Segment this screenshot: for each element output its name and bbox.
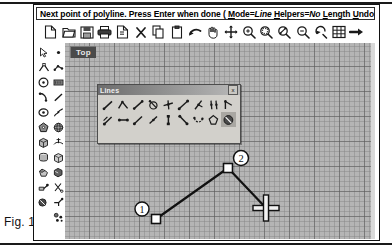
viewport-right-edge bbox=[371, 43, 375, 239]
trim-tool[interactable] bbox=[52, 180, 66, 194]
circle-tool[interactable] bbox=[37, 75, 51, 89]
save-disk-icon[interactable] bbox=[78, 24, 95, 41]
revolve-tool[interactable] bbox=[37, 195, 51, 209]
box-solid-tool[interactable] bbox=[37, 135, 51, 149]
surface-tool[interactable] bbox=[52, 135, 66, 149]
shade-tool[interactable] bbox=[52, 165, 66, 179]
tool-column-one bbox=[36, 43, 51, 239]
fillet-tool[interactable] bbox=[52, 195, 66, 209]
mesh-box-tool[interactable] bbox=[52, 150, 66, 164]
line-single-icon[interactable] bbox=[101, 97, 116, 112]
line-segment-tool[interactable] bbox=[52, 90, 66, 104]
lines-palette-title: Lines bbox=[100, 87, 119, 94]
sphere-tool[interactable] bbox=[52, 120, 66, 134]
line-angle-icon[interactable] bbox=[221, 97, 236, 112]
standard-toolbar bbox=[36, 22, 375, 42]
page-rule-bottom bbox=[0, 243, 392, 245]
pan-hand-icon[interactable] bbox=[204, 24, 221, 41]
line-segment-icon[interactable] bbox=[131, 97, 146, 112]
polygon-tool[interactable] bbox=[37, 120, 51, 134]
line-from-circle-icon[interactable] bbox=[146, 97, 161, 112]
polyline-tool[interactable] bbox=[37, 60, 51, 74]
line-tangent-icon[interactable] bbox=[146, 112, 161, 127]
line-arc-chain-icon[interactable] bbox=[191, 112, 206, 127]
line-through-points-icon[interactable] bbox=[176, 97, 191, 112]
tool-palette bbox=[36, 43, 66, 239]
cylinder-tool[interactable] bbox=[37, 150, 51, 164]
array-tool[interactable] bbox=[52, 210, 66, 224]
move-crosshair-icon[interactable] bbox=[222, 24, 239, 41]
new-file-icon[interactable] bbox=[42, 24, 59, 41]
line-parallel-icon[interactable] bbox=[206, 97, 221, 112]
zoom-out-icon[interactable] bbox=[294, 24, 311, 41]
viewport-label[interactable]: Top bbox=[70, 46, 96, 58]
copy-icon[interactable] bbox=[150, 24, 167, 41]
line-vertical-icon[interactable] bbox=[161, 112, 176, 127]
point-tool[interactable] bbox=[52, 45, 66, 59]
zoom-window-icon[interactable] bbox=[258, 24, 275, 41]
arrow-right-icon[interactable] bbox=[348, 24, 365, 41]
drawing-viewport[interactable]: Top 1 2 Lines bbox=[65, 43, 375, 239]
delete-x-icon[interactable] bbox=[132, 24, 149, 41]
line-perpendicular-icon[interactable] bbox=[161, 97, 176, 112]
ellipse-tool[interactable] bbox=[37, 105, 51, 119]
print-icon[interactable] bbox=[96, 24, 113, 41]
grid-toggle-icon[interactable] bbox=[330, 24, 347, 41]
line-polyline-icon[interactable] bbox=[116, 97, 131, 112]
spline-tool[interactable] bbox=[52, 105, 66, 119]
line-chamfer-icon[interactable] bbox=[176, 112, 191, 127]
zoom-selection-icon[interactable] bbox=[276, 24, 293, 41]
tool-column-two bbox=[51, 43, 66, 239]
print-preview-icon[interactable] bbox=[114, 24, 131, 41]
select-arrow-tool[interactable] bbox=[37, 45, 51, 59]
union-solid-tool[interactable] bbox=[37, 165, 51, 179]
line-ray-icon[interactable] bbox=[131, 112, 146, 127]
line-freehand-icon[interactable] bbox=[221, 112, 236, 127]
zoom-previous-icon[interactable] bbox=[312, 24, 329, 41]
lines-palette-buttons bbox=[98, 95, 241, 127]
command-line-text: Next point of polyline. Press Enter when… bbox=[40, 9, 375, 19]
paste-icon[interactable] bbox=[168, 24, 185, 41]
open-folder-icon[interactable] bbox=[60, 24, 77, 41]
cad-application-window: Next point of polyline. Press Enter when… bbox=[33, 4, 380, 241]
line-polygon-icon[interactable] bbox=[206, 112, 221, 127]
lines-palette-titlebar[interactable]: Lines x bbox=[98, 85, 240, 95]
arc-tool[interactable] bbox=[37, 90, 51, 104]
extrude-tool[interactable] bbox=[37, 180, 51, 194]
dimension-tool[interactable] bbox=[52, 75, 66, 89]
line-offset-icon[interactable] bbox=[101, 112, 116, 127]
line-horizontal-icon[interactable] bbox=[116, 112, 131, 127]
command-line-bar[interactable]: Next point of polyline. Press Enter when… bbox=[36, 7, 375, 20]
curve-node-tool[interactable] bbox=[52, 60, 66, 74]
close-icon[interactable]: x bbox=[228, 85, 238, 95]
line-bisector-icon[interactable] bbox=[191, 97, 206, 112]
undo-arrow-icon[interactable] bbox=[186, 24, 203, 41]
lines-palette-window[interactable]: Lines x bbox=[97, 84, 241, 144]
zoom-in-icon[interactable] bbox=[240, 24, 257, 41]
